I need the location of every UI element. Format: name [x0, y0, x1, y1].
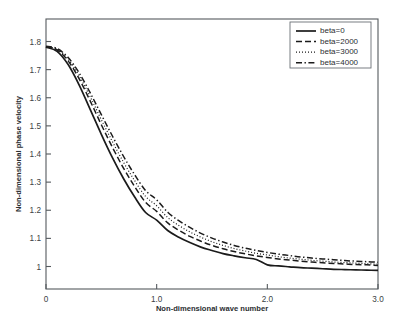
- legend-label-3: beta=4000: [320, 58, 359, 67]
- figure-container: 01.02.03.0 11.11.21.31.41.51.61.71.8 Non…: [0, 0, 400, 322]
- y-tick-label: 1.8: [30, 38, 42, 47]
- legend-label-0: beta=0: [320, 26, 345, 35]
- y-tick-label: 1.5: [30, 122, 42, 131]
- y-tick-label: 1.4: [30, 150, 42, 159]
- legend-label-2: beta=3000: [320, 47, 359, 56]
- y-tick-label: 1.1: [30, 234, 42, 243]
- chart-legend: beta=0beta=2000beta=3000beta=4000: [290, 22, 371, 68]
- x-axis-title: Non-dimensional wave number: [156, 304, 268, 313]
- y-tick-label: 1.6: [30, 94, 42, 103]
- y-tick-label: 1.7: [30, 66, 42, 75]
- y-axis-title: Non-dimensional phase velocity: [14, 95, 23, 212]
- legend-label-1: beta=2000: [320, 37, 359, 46]
- x-tick-label: 3.0: [372, 295, 384, 304]
- phase-velocity-line-chart: 01.02.03.0 11.11.21.31.41.51.61.71.8 Non…: [0, 0, 400, 322]
- y-axis-tick-labels: 11.11.21.31.41.51.61.71.8: [30, 38, 42, 272]
- x-tick-label: 2.0: [262, 295, 274, 304]
- x-tick-label: 0: [44, 295, 49, 304]
- y-tick-label: 1.2: [30, 206, 42, 215]
- x-tick-label: 1.0: [151, 295, 163, 304]
- y-tick-label: 1: [36, 263, 41, 272]
- y-tick-label: 1.3: [30, 178, 42, 187]
